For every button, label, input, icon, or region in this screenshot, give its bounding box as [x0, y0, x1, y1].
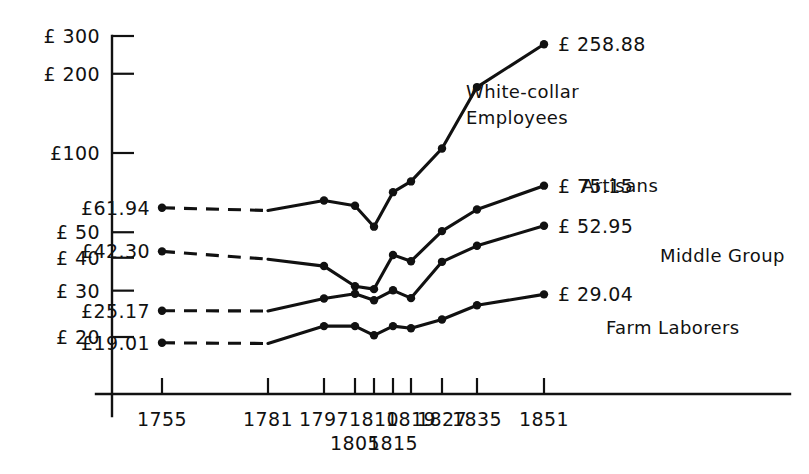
series-end-value-label: £ 29.04	[558, 283, 633, 305]
y-axis-tick-label: £ 300	[44, 25, 100, 47]
series-line-dashed	[162, 251, 268, 259]
series-start-value-label: £19.01	[81, 332, 150, 354]
data-point-marker	[438, 258, 446, 266]
chart-canvas: £ 300£ 200£100£ 50£ 40£ 30£ 201755178117…	[0, 0, 809, 474]
series-name-line: Farm Laborers	[606, 317, 740, 338]
data-point-marker	[351, 290, 359, 298]
data-point-marker	[320, 196, 328, 204]
data-point-marker	[438, 144, 446, 152]
y-axis-tick-label: £100	[50, 142, 100, 164]
axes	[96, 36, 790, 416]
data-point-marker	[407, 324, 415, 332]
data-point-marker	[389, 286, 397, 294]
series-line-dashed	[162, 208, 268, 211]
data-point-marker	[389, 188, 397, 196]
series-name-line: White-collar	[466, 81, 579, 102]
data-point-marker	[158, 204, 166, 212]
data-point-marker	[351, 282, 359, 290]
series-name-label: Middle Group	[660, 245, 785, 266]
data-point-marker	[438, 315, 446, 323]
data-point-marker	[370, 296, 378, 304]
chart-labels: £ 300£ 200£100£ 50£ 40£ 30£ 201755178117…	[44, 25, 785, 454]
y-axis-tick-label: £ 30	[56, 280, 100, 302]
data-point-marker	[158, 339, 166, 347]
data-point-marker	[370, 285, 378, 293]
data-point-marker	[158, 247, 166, 255]
data-point-marker	[473, 205, 481, 213]
data-point-marker	[407, 257, 415, 265]
data-point-marker	[473, 301, 481, 309]
data-point-marker	[320, 322, 328, 330]
data-point-marker	[370, 331, 378, 339]
data-point-marker	[389, 251, 397, 259]
series-start-value-label: £42.30	[81, 240, 150, 262]
data-point-marker	[540, 181, 548, 189]
y-axis-tick-label: £ 200	[44, 63, 100, 85]
x-axis-tick-label: 1781	[243, 408, 293, 430]
data-point-marker	[540, 221, 548, 229]
series-name-label: White-collarEmployees	[466, 81, 579, 128]
series-name-label: Artisans	[582, 175, 658, 196]
series-line	[268, 226, 544, 311]
data-point-marker	[351, 322, 359, 330]
series-start-value-label: £61.94	[81, 197, 150, 219]
series-line-dashed	[162, 343, 268, 344]
series-end-value-label: £ 52.95	[558, 215, 633, 237]
data-point-marker	[158, 307, 166, 315]
x-axis-tick-label: 1835	[452, 408, 502, 430]
series-end-value-label: £ 258.88	[558, 33, 646, 55]
data-point-marker	[473, 242, 481, 250]
x-axis-tick-label: 1815	[368, 432, 418, 454]
series-name-line: Artisans	[582, 175, 658, 196]
data-point-marker	[351, 202, 359, 210]
data-point-marker	[540, 290, 548, 298]
data-point-marker	[540, 40, 548, 48]
x-axis-tick-label: 1755	[137, 408, 187, 430]
series-name-line: Employees	[466, 107, 568, 128]
data-point-marker	[407, 294, 415, 302]
series-start-value-label: £25.17	[81, 300, 150, 322]
data-point-marker	[320, 294, 328, 302]
series-name-label: Farm Laborers	[606, 317, 740, 338]
wage-trend-chart: £ 300£ 200£100£ 50£ 40£ 30£ 201755178117…	[0, 0, 809, 474]
data-point-marker	[389, 322, 397, 330]
series-name-line: Middle Group	[660, 245, 785, 266]
data-point-marker	[320, 262, 328, 270]
x-axis-tick-label: 1851	[519, 408, 569, 430]
data-point-marker	[370, 222, 378, 230]
x-axis-tick-label: 1797	[299, 408, 349, 430]
data-point-marker	[407, 177, 415, 185]
data-point-marker	[438, 227, 446, 235]
